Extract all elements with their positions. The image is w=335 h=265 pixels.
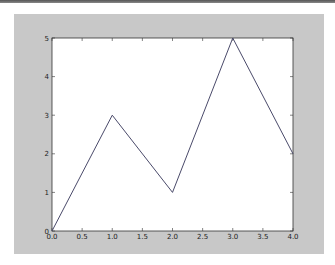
line-chart: 0.00.51.01.52.02.53.03.54.0012345 — [0, 0, 335, 265]
y-tick-label: 3 — [45, 112, 49, 120]
x-tick-label: 3.5 — [257, 233, 268, 241]
plot-area — [52, 38, 293, 231]
x-tick-label: 3.0 — [227, 233, 238, 241]
x-tick-label: 2.5 — [197, 233, 208, 241]
x-tick-label: 4.0 — [287, 233, 298, 241]
y-tick-label: 2 — [45, 150, 49, 158]
x-tick-label: 2.0 — [167, 233, 178, 241]
y-tick-label: 4 — [45, 73, 50, 81]
x-tick-label: 0.5 — [77, 233, 88, 241]
x-tick-label: 1.5 — [137, 233, 148, 241]
y-tick-label: 0 — [45, 228, 49, 236]
y-tick-label: 5 — [45, 35, 49, 43]
x-tick-label: 1.0 — [107, 233, 118, 241]
y-tick-label: 1 — [45, 189, 49, 197]
